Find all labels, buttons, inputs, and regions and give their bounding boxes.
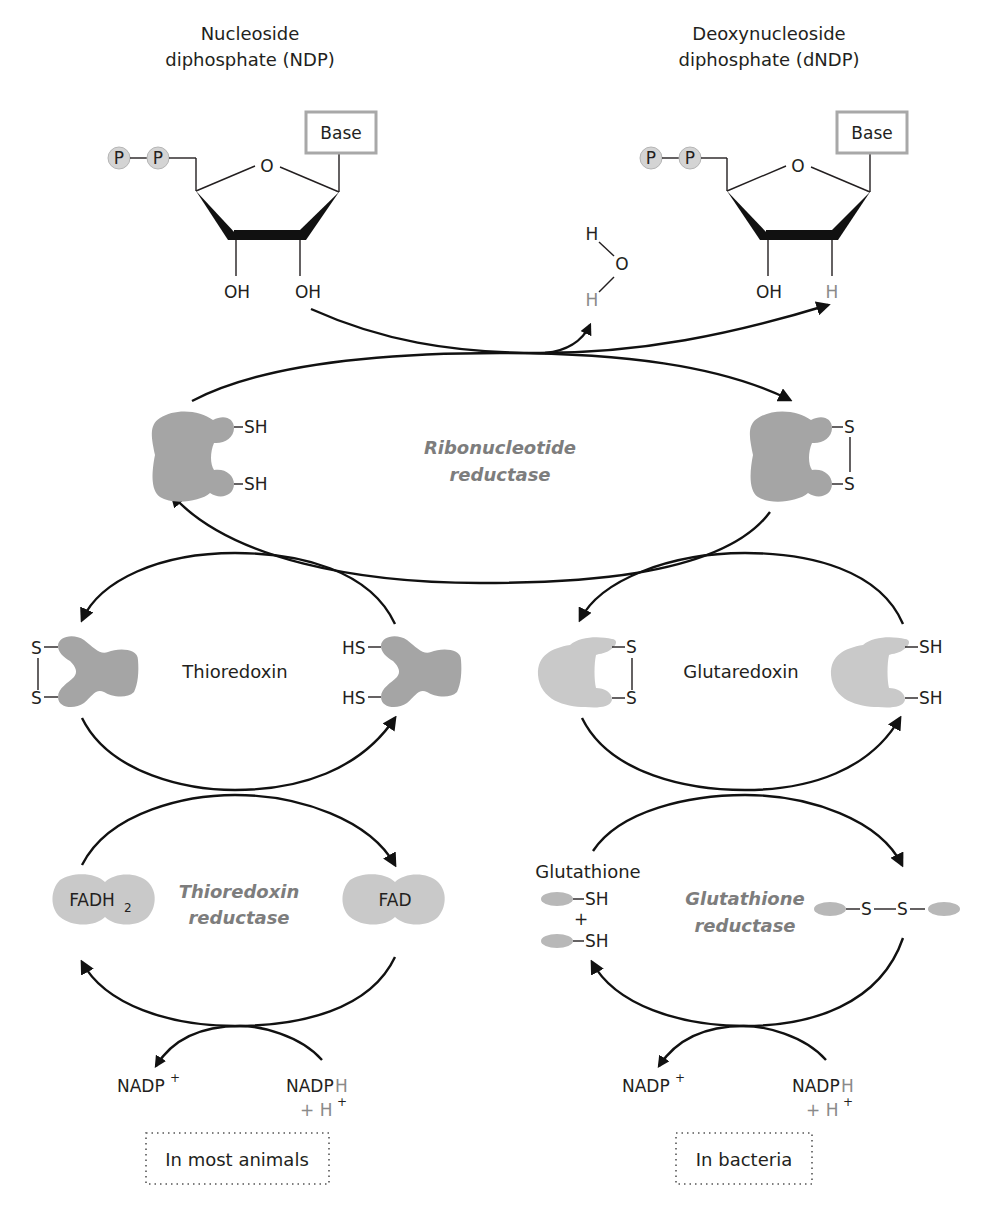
water-oxygen: O [615,254,628,274]
trx-hs-top: HS [342,638,366,658]
rnr-sh-bottom: SH [244,474,268,494]
gsh-sh-2: SH [585,931,609,951]
plus-h-right-sup: + [843,1095,853,1109]
nadph-to-nadp-arrow-left [156,1026,322,1066]
gssg-s-2: S [897,899,908,919]
rnr-sh-top: SH [244,417,268,437]
glutaredoxin-label: Glutaredoxin [683,661,798,682]
grx-sh-top: SH [919,637,943,657]
trx-s-bottom: S [31,688,42,708]
nadph-right: NADP [792,1076,840,1096]
cofactors-right: NADP + NADP H + H + In bacteria [622,1026,854,1184]
rnr-s-top: S [844,417,855,437]
nadph-right-h: H [841,1076,854,1096]
glutathione-label: Glutathione [535,861,640,882]
nadph-left: NADP [286,1076,334,1096]
dndp-ring-oxygen: O [791,156,804,176]
gsr-oxidation-arrow [593,795,902,865]
nadp-plus-left: NADP [117,1076,165,1096]
thioredoxin-reduction-arrow [82,718,395,790]
water-release-arrow [545,325,590,353]
fadh2-label: FADH [69,890,115,910]
rnr-protein-reduced-icon [152,411,234,501]
dndp-molecule: Deoxynucleoside diphosphate (dNDP) P P O… [640,23,907,302]
thioredoxin-oxidation-arrow [82,553,395,624]
dndp-title-line2: diphosphate (dNDP) [678,49,859,70]
organism-label-left: In most animals [165,1149,309,1170]
dndp-oh-3prime: OH [756,282,782,302]
glutathione-reductase-cycle: Glutathione SH + SH Glutathione reductas… [535,795,960,1026]
fad-label: FAD [379,890,412,910]
trxr-label-line2: reductase [188,907,289,928]
gsr-label-line2: reductase [694,915,795,936]
dndp-phosphate-1: P [646,148,656,168]
glutaredoxin-oxidation-arrow [580,553,903,624]
trxr-fad-arrow [82,795,395,865]
rnr-s-bottom: S [844,474,855,494]
plus-h-left-sup: + [337,1095,347,1109]
fadh2-subscript: 2 [124,901,132,915]
ndp-oh-2prime: OH [224,282,250,302]
rnr-label-line1: Ribonucleotide [424,437,576,458]
water-h-bottom: H [586,290,599,310]
water-h-top: H [586,224,599,244]
grx-s-top: S [626,637,637,657]
rnr-regeneration-arrow [172,495,770,583]
ndp-phosphate-2: P [153,148,163,168]
ribonucleotide-reductase-cycle: SH SH S S Ribonucleotide reductase [152,411,855,501]
rnr-oxidation-arrow [192,353,790,401]
glutaredoxin-reduction-arrow [582,718,900,790]
thioredoxin-oxidized-icon [58,636,138,707]
grx-sh-bottom: SH [919,688,943,708]
dndp-phosphate-2: P [685,148,695,168]
nadp-plus-right-sup: + [675,1071,685,1085]
trxr-label-line1: Thioredoxin [179,881,300,902]
trx-s-top: S [31,638,42,658]
dndp-base: Base [851,123,892,143]
thioredoxin-reduced-icon [381,636,461,707]
glutathione-icon [541,934,573,948]
cofactors-left: NADP + NADP H + H + In most animals [117,1026,348,1184]
rnr-protein-oxidized-icon [750,411,832,501]
thioredoxin-reductase-cycle: FADH 2 FAD Thioredoxin reductase [53,795,445,1026]
plus-h-right: + H [806,1100,838,1120]
ndp-phosphate-1: P [114,148,124,168]
glutaredoxin-reduced-icon [831,637,909,707]
glutaredoxin-oxidized-icon [538,637,616,707]
ndp-base: Base [320,123,361,143]
ndp-title-line2: diphosphate (NDP) [165,49,335,70]
water-molecule: H O H [586,224,629,310]
thioredoxin-label: Thioredoxin [181,661,287,682]
nadp-plus-left-sup: + [170,1071,180,1085]
nadph-to-nadp-arrow-right [659,1026,826,1066]
dndp-h-2prime: H [826,282,839,302]
glutathione-disulfide-icon [928,902,960,916]
trxr-fadh2-arrow [82,957,395,1026]
rnr-label-line2: reductase [449,464,550,485]
nadp-plus-right: NADP [622,1076,670,1096]
gsh-plus: + [574,909,588,929]
gsr-label-line1: Glutathione [685,888,805,909]
organism-label-right: In bacteria [696,1149,792,1170]
dndp-title-line1: Deoxynucleoside [692,23,845,44]
glutathione-disulfide-icon [814,902,846,916]
glutathione-icon [541,892,573,906]
gsh-sh-1: SH [585,889,609,909]
trx-hs-bottom: HS [342,688,366,708]
glutaredoxin-cycle: S S Glutaredoxin SH SH [538,553,943,790]
plus-h-left: + H [300,1100,332,1120]
ndp-ring-oxygen: O [260,156,273,176]
grx-s-bottom: S [626,688,637,708]
thioredoxin-cycle: S S Thioredoxin HS HS [31,553,461,790]
nadph-left-h: H [335,1076,348,1096]
gssg-s-1: S [861,899,872,919]
ndp-molecule: Nucleoside diphosphate (NDP) P P O OH OH… [108,23,376,302]
ndp-oh-3prime: OH [295,282,321,302]
gsr-reduction-arrow [592,938,903,1026]
ndp-title-line1: Nucleoside [201,23,300,44]
